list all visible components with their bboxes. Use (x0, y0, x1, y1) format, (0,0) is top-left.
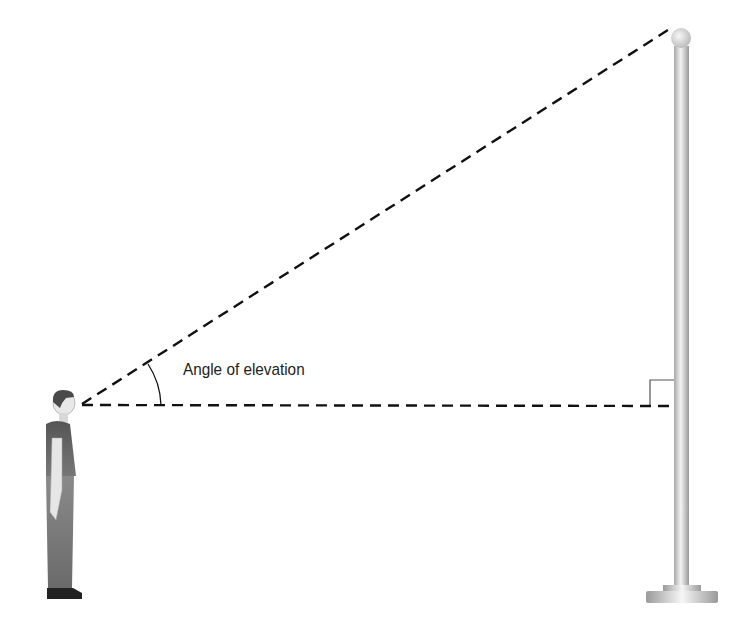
pole-shaft (674, 46, 689, 591)
angle-arc (148, 364, 161, 405)
flagpole (646, 28, 718, 603)
angle-label: Angle of elevation (183, 360, 305, 380)
person-shoes (47, 588, 82, 599)
right-angle-marker (650, 380, 674, 405)
angle-of-elevation-diagram: Angle of elevation (0, 0, 751, 630)
pole-finial (671, 28, 691, 48)
horizontal-line (82, 405, 673, 406)
line-of-sight (82, 30, 668, 404)
diagram-canvas (0, 0, 751, 630)
pole-base (646, 591, 718, 603)
observer-person (46, 390, 82, 599)
